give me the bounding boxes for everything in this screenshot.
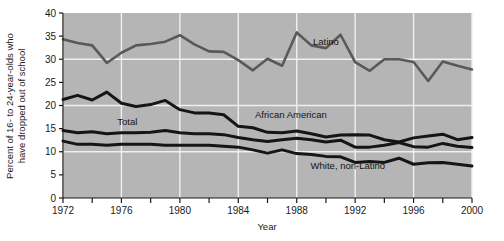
y-tick-label: 35	[45, 31, 57, 42]
y-axis-title-line2: have dropped out of school	[16, 49, 27, 164]
line-chart-svg: 0510152025303540 19721976198019841988199…	[0, 0, 504, 241]
x-axis-ticks	[63, 198, 472, 203]
x-tick-label: 2000	[461, 205, 484, 216]
x-tick-label: 1988	[286, 205, 309, 216]
y-tick-label: 0	[50, 193, 56, 204]
y-tick-label: 5	[50, 169, 56, 180]
y-axis-title-line1: Percent of 16- to 24-year-olds who	[4, 33, 15, 179]
x-tick-label: 1972	[52, 205, 75, 216]
y-tick-label: 10	[45, 146, 57, 157]
y-tick-label: 15	[45, 123, 57, 134]
x-tick-label: 1984	[227, 205, 250, 216]
series-label-latino: Latino	[313, 36, 339, 47]
chart-figure: 0510152025303540 19721976198019841988199…	[0, 0, 504, 241]
series-label-african-american: African American	[255, 109, 327, 120]
y-axis-tick-labels: 0510152025303540	[45, 8, 57, 204]
x-tick-label: 1992	[344, 205, 367, 216]
x-axis-title: Year	[257, 221, 276, 232]
y-tick-label: 30	[45, 54, 57, 65]
series-label-total: Total	[117, 116, 137, 127]
y-tick-label: 25	[45, 77, 57, 88]
x-tick-label: 1976	[110, 205, 133, 216]
series-label-white-non-latino: White, non-Latino	[311, 160, 385, 171]
x-tick-label: 1980	[169, 205, 192, 216]
y-tick-label: 20	[45, 100, 57, 111]
x-axis-tick-labels: 19721976198019841988199219962000	[52, 205, 484, 216]
y-tick-label: 40	[45, 8, 57, 19]
x-tick-label: 1996	[402, 205, 425, 216]
